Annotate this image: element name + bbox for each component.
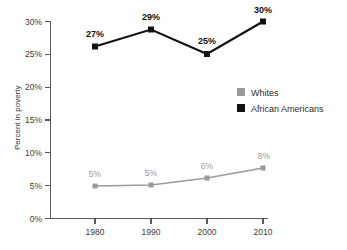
data-label-whites-1980: 5%	[89, 169, 102, 179]
y-axis-title: Percent in poverty	[13, 86, 22, 150]
legend-label-african-americans: African Americans	[251, 104, 324, 114]
y-tick-label-15: 15%	[25, 115, 42, 125]
series-markers-african-americans	[92, 19, 266, 58]
data-point-aa-2000	[204, 51, 210, 57]
series-line-whites	[95, 168, 263, 186]
legend-swatch-whites	[237, 88, 245, 96]
x-axis-ticks	[95, 219, 263, 225]
data-label-aa-2000: 25%	[198, 36, 216, 46]
data-label-whites-2010: 8%	[258, 151, 271, 161]
data-point-aa-1990	[148, 27, 154, 33]
y-tick-label-30: 30%	[25, 17, 42, 27]
poverty-line-chart: 30% 25% 20% 15% 10% 5% 0% Percent in pov…	[0, 0, 347, 250]
data-point-aa-1980	[92, 44, 98, 50]
legend-label-whites: Whites	[251, 88, 279, 98]
data-point-whites-2010	[261, 166, 266, 171]
data-point-aa-2010	[260, 19, 266, 25]
y-tick-label-0: 0%	[30, 214, 43, 224]
y-axis-ticks	[45, 22, 51, 219]
data-label-whites-2000: 6%	[201, 161, 214, 171]
chart-legend: Whites African Americans	[237, 88, 324, 114]
y-tick-label-25: 25%	[25, 49, 42, 59]
data-point-whites-1980	[93, 184, 98, 189]
data-label-aa-2010: 30%	[254, 5, 272, 15]
data-point-whites-2000	[205, 176, 210, 181]
data-label-aa-1990: 29%	[142, 12, 160, 22]
legend-swatch-african-americans	[237, 104, 245, 112]
y-tick-label-10: 10%	[25, 148, 42, 158]
series-line-african-americans	[95, 22, 263, 55]
data-label-whites-1990: 5%	[145, 168, 158, 178]
y-tick-label-20: 20%	[25, 82, 42, 92]
data-point-whites-1990	[149, 183, 154, 188]
x-tick-label-2010: 2010	[254, 227, 273, 237]
x-tick-label-1990: 1990	[142, 227, 161, 237]
chart-canvas: 30% 25% 20% 15% 10% 5% 0% Percent in pov…	[0, 0, 347, 250]
y-tick-label-5: 5%	[30, 181, 43, 191]
x-tick-label-1980: 1980	[86, 227, 105, 237]
data-label-aa-1980: 27%	[86, 29, 104, 39]
x-tick-label-2000: 2000	[198, 227, 217, 237]
